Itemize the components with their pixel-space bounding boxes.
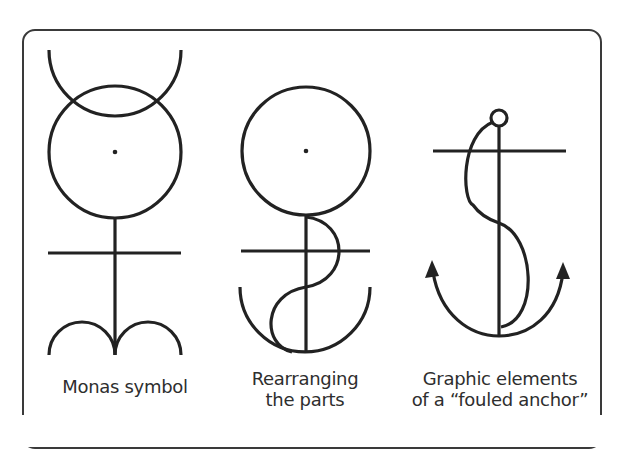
- caption-monas-symbol: Monas symbol: [40, 376, 210, 397]
- rearr-center-dot: [304, 149, 309, 154]
- monas-symbol-icon: [48, 50, 181, 355]
- rearranging-icon: [240, 87, 370, 353]
- anchor-rope: [466, 122, 528, 327]
- caption-line: of a “fouled anchor”: [395, 389, 605, 410]
- caption-line: Rearranging: [225, 368, 385, 389]
- caption-fouled-anchor: Graphic elements of a “fouled anchor”: [395, 368, 605, 410]
- anchor-ring: [491, 110, 507, 126]
- caption-line: the parts: [225, 389, 385, 410]
- caption-line: Monas symbol: [40, 376, 210, 397]
- fouled-anchor-icon: [433, 110, 566, 336]
- bottom-crop-mask: [0, 415, 627, 447]
- right-arrowhead-icon: [556, 262, 570, 279]
- caption-rearranging: Rearranging the parts: [225, 368, 385, 410]
- caption-line: Graphic elements: [395, 368, 605, 389]
- left-arrowhead-icon: [425, 260, 439, 278]
- monas-center-dot: [113, 150, 118, 155]
